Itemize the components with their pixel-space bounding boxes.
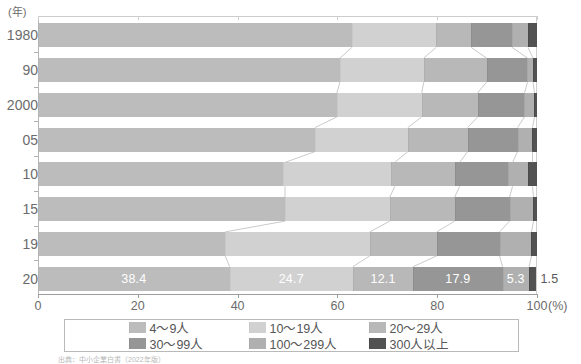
legend-item[interactable]: 300人以上	[369, 337, 481, 351]
x-axis-line	[38, 294, 538, 295]
x-axis-tick-label: 0	[35, 299, 42, 313]
bar-segment-value-label: 17.9	[445, 272, 470, 286]
bar-segment	[38, 197, 285, 221]
bar-segment-value-label: 5.3	[507, 272, 525, 286]
x-axis-tick-top	[238, 16, 239, 20]
x-axis-tick	[537, 294, 538, 298]
bar-segment	[533, 197, 536, 221]
y-axis-tick-label: 2000	[7, 97, 38, 113]
bar-segment	[500, 232, 532, 256]
bar-segment	[528, 23, 537, 47]
bar-segment: 24.7	[230, 267, 353, 291]
x-axis-tick	[437, 294, 438, 298]
bar-segment	[471, 23, 512, 47]
x-axis-unit-label: (%)	[548, 299, 567, 313]
y-axis-tick	[34, 121, 38, 122]
x-axis-tick	[38, 294, 39, 298]
bar-segment	[533, 58, 537, 82]
bar-segment-value-label: 12.1	[370, 272, 395, 286]
bar-segment	[455, 197, 510, 221]
y-axis-tick	[34, 191, 38, 192]
bar-segment	[391, 162, 455, 186]
source-note: 出典：中小企業白書（2022年版）	[58, 354, 165, 364]
bar-segment	[390, 197, 455, 221]
bar-segment: 5.3	[503, 267, 529, 291]
bar-segment-value-label: 38.4	[121, 272, 146, 286]
bar-segment	[283, 162, 392, 186]
bar-segment	[468, 128, 518, 152]
bar-90	[38, 58, 537, 82]
bar-segment	[508, 162, 528, 186]
legend-item[interactable]: 10〜19人	[249, 321, 361, 335]
bar-segment	[478, 93, 525, 117]
bar-segment	[424, 58, 487, 82]
bar-19	[38, 232, 537, 256]
bar-segment: 12.1	[353, 267, 413, 291]
bar-segment	[38, 23, 352, 47]
y-axis-tick-label: 20	[22, 271, 38, 287]
bar-2000	[38, 93, 537, 117]
bar-segment	[38, 93, 337, 117]
bar-segment	[38, 162, 283, 186]
y-axis-tick-label: 10	[22, 166, 38, 182]
x-axis-tick-label: 80	[430, 299, 444, 313]
bar-segment	[38, 58, 340, 82]
x-axis-tick-top	[38, 16, 39, 20]
y-axis-tick-label: 15	[22, 201, 38, 217]
legend-swatch	[129, 322, 146, 333]
bar-segment-value-label: 1.5	[540, 272, 558, 286]
bar-segment	[518, 128, 533, 152]
bar-10	[38, 162, 537, 186]
y-axis-tick-label: 19	[22, 236, 38, 252]
x-axis-tick-top	[337, 16, 338, 20]
bar-segment	[422, 93, 478, 117]
legend-swatch	[369, 322, 386, 333]
bar-segment	[225, 232, 370, 256]
y-axis-tick-label: 1980	[7, 27, 38, 43]
bar-segment	[38, 232, 225, 256]
legend-item[interactable]: 100〜299人	[249, 337, 361, 351]
bar-segment	[408, 128, 468, 152]
bar-segment: 1.5	[529, 267, 536, 291]
bar-segment	[512, 23, 528, 47]
bar-1980	[38, 23, 537, 47]
legend-swatch	[129, 338, 146, 349]
x-axis-tick	[337, 294, 338, 298]
x-axis-tick-top	[437, 16, 438, 20]
bar-segment: 38.4	[38, 267, 230, 291]
bar-segment	[436, 23, 471, 47]
bar-segment	[534, 93, 536, 117]
y-axis-tick-label: 05	[22, 132, 38, 148]
y-axis-tick	[34, 156, 38, 157]
bar-segment	[524, 93, 534, 117]
y-axis-tick-label: 90	[22, 62, 38, 78]
legend-label: 100〜299人	[270, 334, 338, 353]
bar-segment	[352, 23, 436, 47]
legend-item[interactable]: 4〜9人	[129, 321, 241, 335]
legend-label: 30〜99人	[150, 334, 204, 353]
y-axis-tick	[34, 260, 38, 261]
bar-20: 38.424.712.117.95.31.5	[38, 267, 537, 291]
legend-item[interactable]: 30〜99人	[129, 337, 241, 351]
bar-segment	[370, 232, 437, 256]
bar-segment	[487, 58, 528, 82]
bar-segment	[510, 197, 534, 221]
y-axis-unit-label: (年)	[8, 3, 26, 19]
x-axis-tick-label: 100	[527, 299, 548, 313]
x-axis-tick-label: 60	[330, 299, 344, 313]
legend-item[interactable]: 20〜29人	[369, 321, 481, 335]
bar-segment-value-label: 24.7	[279, 272, 304, 286]
legend-swatch	[369, 338, 386, 349]
legend-swatch	[249, 322, 266, 333]
x-axis-tick	[238, 294, 239, 298]
x-axis-tick-label: 40	[231, 299, 245, 313]
y-axis-tick	[34, 52, 38, 53]
bar-segment: 17.9	[413, 267, 502, 291]
bar-segment	[528, 162, 537, 186]
legend-label: 300人以上	[390, 334, 450, 353]
x-axis-tick-label: 20	[131, 299, 145, 313]
y-axis-tick	[34, 87, 38, 88]
bar-segment	[531, 232, 536, 256]
bar-segment	[455, 162, 507, 186]
